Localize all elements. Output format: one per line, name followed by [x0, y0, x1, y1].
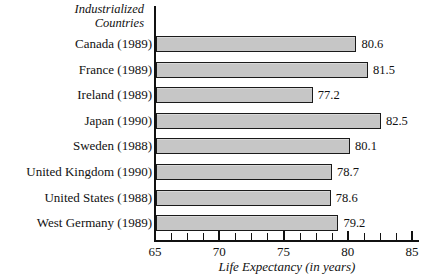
x-tick-label-85: 85 [392, 244, 432, 260]
bar-row: United Kingdom (1990)78.7 [0, 161, 440, 183]
category-axis-title-line2: Countries [0, 16, 144, 30]
category-axis-title-line1: Industrialized [0, 2, 144, 16]
bar-row: Japan (1990)82.5 [0, 110, 440, 132]
x-tick-minor-9 [364, 233, 365, 241]
x-tick-label-80: 80 [328, 244, 368, 260]
bar-row: United States (1988)78.6 [0, 187, 440, 209]
bar-value-label: 79.2 [343, 212, 365, 234]
life-expectancy-bar-chart: Industrialized Countries 6570758085 Cana… [0, 0, 440, 279]
bar-value-label: 81.5 [373, 59, 395, 81]
bar-value-label: 80.6 [361, 33, 383, 55]
bar-category-label: Canada (1989) [4, 33, 152, 55]
x-tick-minor-4 [251, 233, 252, 241]
x-tick-minor-8 [332, 233, 333, 241]
bar-value-label: 77.2 [318, 84, 340, 106]
x-tick-minor-5 [267, 233, 268, 241]
x-tick-minor-1 [187, 233, 188, 241]
bar [156, 36, 356, 52]
bar [156, 215, 338, 231]
bar-row: Canada (1989)80.6 [0, 33, 440, 55]
x-tick-minor-10 [380, 233, 381, 241]
bar-category-label: West Germany (1989) [4, 212, 152, 234]
x-tick-label-65: 65 [135, 244, 175, 260]
category-axis-title: Industrialized Countries [0, 2, 144, 30]
x-tick-minor-11 [396, 233, 397, 241]
bar [156, 87, 313, 103]
bar-value-label: 82.5 [386, 110, 408, 132]
x-tick-minor-3 [235, 233, 236, 241]
bar-row: Ireland (1989)77.2 [0, 84, 440, 106]
bar-category-label: United States (1988) [4, 187, 152, 209]
x-tick-minor-6 [300, 233, 301, 241]
bar-category-label: Japan (1990) [4, 110, 152, 132]
x-tick-label-70: 70 [199, 244, 239, 260]
x-tick-minor-2 [203, 233, 204, 241]
bar [156, 164, 332, 180]
bar-value-label: 78.7 [337, 161, 359, 183]
bar-row: West Germany (1989)79.2 [0, 212, 440, 234]
bar-category-label: Sweden (1988) [4, 135, 152, 157]
x-tick-minor-0 [171, 233, 172, 241]
x-tick-label-75: 75 [264, 244, 304, 260]
x-axis-title: Life Expectancy (in years) [154, 259, 420, 275]
bar-value-label: 78.6 [336, 187, 358, 209]
bar [156, 62, 368, 78]
x-tick-minor-7 [316, 233, 317, 241]
bar-category-label: France (1989) [4, 59, 152, 81]
bar-category-label: Ireland (1989) [4, 84, 152, 106]
bar-row: Sweden (1988)80.1 [0, 135, 440, 157]
bar-row: France (1989)81.5 [0, 59, 440, 81]
bar [156, 138, 350, 154]
bar [156, 113, 381, 129]
bar-category-label: United Kingdom (1990) [4, 161, 152, 183]
bar [156, 190, 331, 206]
bar-value-label: 80.1 [355, 135, 377, 157]
